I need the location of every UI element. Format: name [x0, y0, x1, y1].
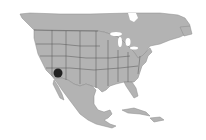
occurrence-marker-dot: [54, 69, 63, 78]
cuba: [122, 108, 150, 116]
florida: [124, 82, 138, 98]
hispaniola: [150, 117, 164, 122]
north-america-map: [0, 0, 206, 140]
